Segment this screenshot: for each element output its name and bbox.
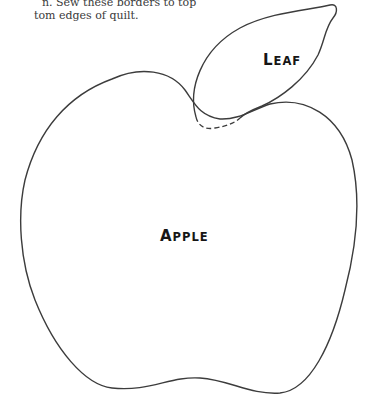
leaf-label: LEAF — [263, 50, 301, 69]
apple-label-initial: A — [160, 227, 173, 245]
leaf-label-initial: L — [263, 51, 274, 69]
applique-pattern — [0, 0, 365, 397]
leaf-label-rest: EAF — [274, 54, 302, 68]
apple-label: APPLE — [160, 226, 209, 245]
apple-label-rest: PPLE — [173, 230, 209, 244]
